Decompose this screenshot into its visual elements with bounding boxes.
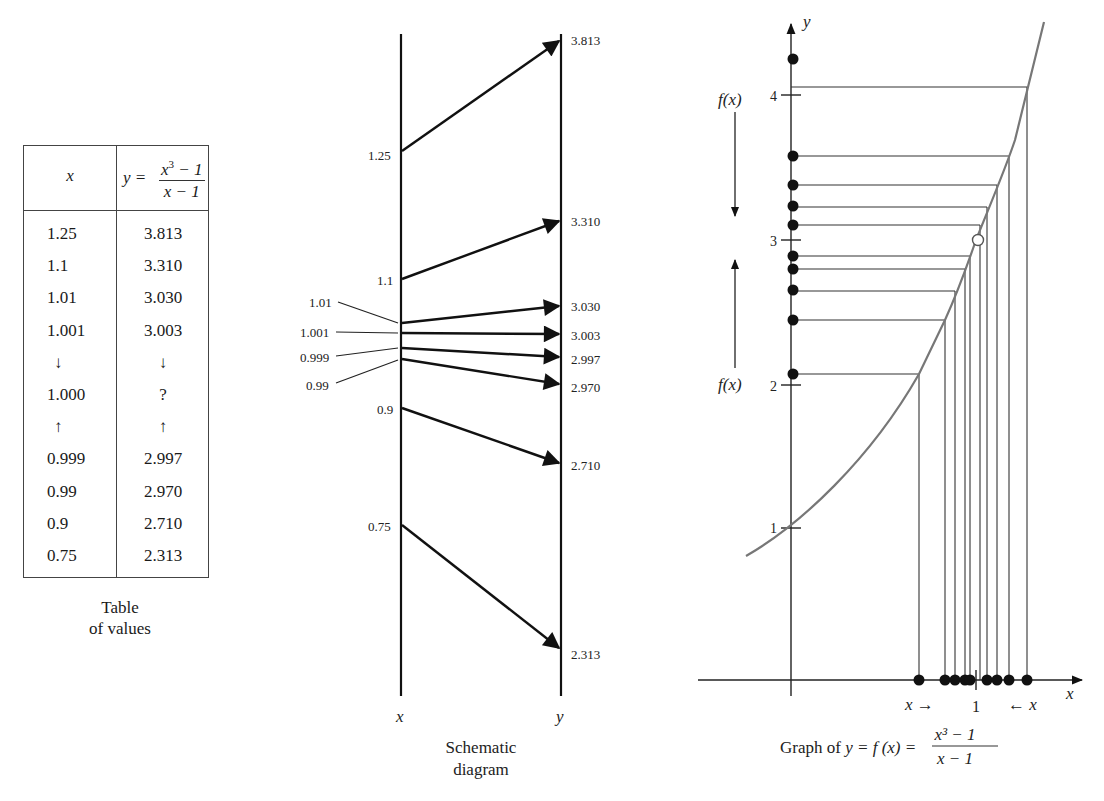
- label-y-3.030: 3.030: [571, 299, 600, 314]
- label-x-1.001: 1.001: [300, 325, 329, 340]
- schematic-right-labels: 3.813 3.310 3.030 3.003 2.997 2.970 2.71…: [571, 33, 601, 662]
- label-y-3.003: 3.003: [571, 328, 600, 343]
- x-approach-left-label: x →: [904, 695, 934, 714]
- svg-text:4: 4: [770, 89, 777, 104]
- schematic-caption: Schematic diagram: [446, 738, 517, 779]
- label-y-2.313: 2.313: [571, 647, 600, 662]
- svg-text:3: 3: [770, 234, 777, 249]
- svg-text:2: 2: [770, 379, 777, 394]
- x-approach-right-label: ← x: [1008, 695, 1037, 714]
- label-x-1.25: 1.25: [368, 148, 391, 163]
- graph-axes: [698, 24, 1082, 696]
- graph-caption: Graph of y = f (x) = x³ − 1 x − 1: [780, 725, 998, 768]
- svg-text:1: 1: [770, 521, 777, 536]
- svg-text:Graph of y = f (x) =: Graph of y = f (x) =: [780, 738, 916, 757]
- svg-text:Schematic: Schematic: [446, 738, 517, 757]
- label-y-3.813: 3.813: [571, 33, 600, 48]
- graph-projection-lines: [791, 87, 1027, 680]
- y-axis-dots: [788, 54, 799, 380]
- open-circle-hole: [973, 235, 984, 246]
- graph-y-axis-label: y: [801, 12, 811, 31]
- schematic-diagram: 1.25 1.1 1.01 1.001 0.999 0.99 0.9 0.75 …: [0, 0, 1104, 801]
- schematic-axes: [401, 34, 561, 696]
- label-x-0.99: 0.99: [306, 378, 329, 393]
- label-y-3.310: 3.310: [571, 214, 600, 229]
- schematic-axis-labels: x y: [395, 707, 564, 726]
- schematic-y-label: y: [554, 707, 564, 726]
- label-y-2.997: 2.997: [571, 352, 601, 367]
- graph-x-axis-label: x: [1065, 684, 1074, 703]
- label-y-2.710: 2.710: [571, 458, 600, 473]
- schematic-arrows: [402, 41, 559, 648]
- label-x-0.75: 0.75: [368, 519, 391, 534]
- svg-text:x − 1: x − 1: [936, 749, 973, 768]
- fx-label-bottom: f(x): [718, 375, 742, 394]
- label-y-2.970: 2.970: [571, 380, 600, 395]
- graph-tick-labels: 1 2 3 4 1: [770, 89, 980, 715]
- fx-label-top: f(x): [718, 90, 742, 109]
- svg-text:diagram: diagram: [453, 760, 509, 779]
- label-x-0.999: 0.999: [300, 350, 329, 365]
- svg-text:1: 1: [972, 698, 980, 715]
- schematic-leader-lines: [336, 302, 398, 383]
- schematic-left-labels: 1.25 1.1 1.01 1.001 0.999 0.99 0.9 0.75: [300, 148, 393, 534]
- svg-text:x³ − 1: x³ − 1: [933, 725, 975, 744]
- label-x-1.1: 1.1: [377, 273, 393, 288]
- label-x-0.9: 0.9: [377, 402, 393, 417]
- label-x-1.01: 1.01: [309, 295, 332, 310]
- schematic-x-label: x: [395, 707, 404, 726]
